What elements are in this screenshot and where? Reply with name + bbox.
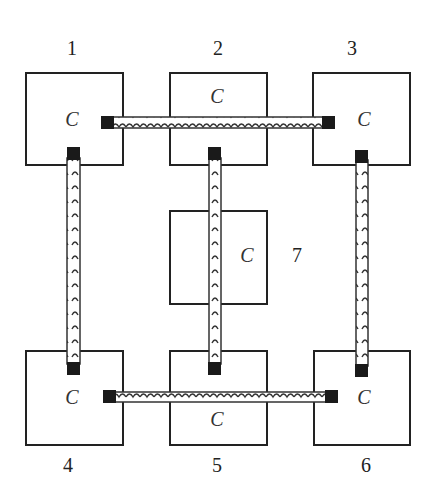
wire-3-to-6 bbox=[356, 160, 368, 366]
cell-7-label: C bbox=[240, 244, 254, 266]
terminal-4-top bbox=[67, 362, 80, 375]
cell-number-3: 3 bbox=[347, 37, 357, 59]
wire-4-to-6 bbox=[114, 392, 328, 402]
wire-1-to-4 bbox=[67, 158, 80, 364]
wire-2-to-5 bbox=[209, 158, 221, 364]
cell-2-label: C bbox=[210, 85, 224, 107]
cell-number-1: 1 bbox=[67, 37, 77, 59]
cell-number-6: 6 bbox=[361, 454, 371, 476]
cell-number-5: 5 bbox=[212, 454, 222, 476]
terminal-1-right bbox=[101, 116, 114, 129]
cell-number-7: 7 bbox=[292, 244, 302, 266]
cell-3-label: C bbox=[357, 108, 371, 130]
terminal-1-bottom bbox=[67, 147, 80, 160]
terminal-6-left bbox=[325, 390, 338, 403]
cell-5-label: C bbox=[210, 408, 224, 430]
cell-number-4: 4 bbox=[63, 454, 73, 476]
cell-6-label: C bbox=[357, 386, 371, 408]
wire-1-to-3 bbox=[112, 117, 324, 128]
cell-number-2: 2 bbox=[213, 37, 223, 59]
cell-1-label: C bbox=[65, 108, 79, 130]
cell-4-label: C bbox=[65, 386, 79, 408]
terminal-3-left bbox=[322, 116, 335, 129]
terminal-4-right bbox=[103, 390, 116, 403]
cell-routing-diagram: CCCCCCC1237456 bbox=[0, 0, 434, 494]
terminal-3-bottom bbox=[355, 150, 368, 163]
terminal-5-top bbox=[208, 362, 221, 375]
terminal-6-top bbox=[355, 364, 368, 377]
terminal-2-bottom bbox=[208, 147, 221, 160]
